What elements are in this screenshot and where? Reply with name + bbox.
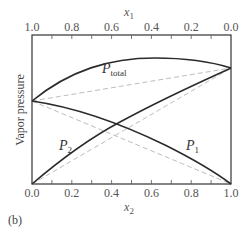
- svg-text:0.4: 0.4: [104, 186, 119, 200]
- raoult-ideal-lines: [32, 68, 231, 184]
- ptotal-curve: [32, 58, 231, 101]
- y-axis-title: Vapor pressure: [13, 74, 27, 146]
- svg-text:0.2: 0.2: [184, 20, 199, 34]
- p1-label: P1: [185, 138, 199, 155]
- svg-text:1.0: 1.0: [224, 186, 239, 200]
- ideal-p2-line: [32, 68, 231, 184]
- svg-text:0.0: 0.0: [224, 20, 239, 34]
- svg-text:1.0: 1.0: [25, 20, 40, 34]
- svg-text:0.8: 0.8: [184, 186, 199, 200]
- x1-axis-title: x1: [123, 5, 134, 21]
- svg-text:0.2: 0.2: [64, 186, 79, 200]
- actual-curves: [32, 58, 231, 184]
- svg-text:0.6: 0.6: [144, 186, 159, 200]
- vapor-pressure-chart: 1.0 0.8 0.6 0.4 0.2 0.0 0.0 0.2 0.4 0.6 …: [0, 0, 247, 236]
- ptotal-label: Ptotal: [101, 61, 127, 78]
- panel-label: (b): [8, 213, 22, 227]
- svg-text:0.8: 0.8: [64, 20, 79, 34]
- top-tick-labels: 1.0 0.8 0.6 0.4 0.2 0.0: [25, 20, 239, 34]
- x2-axis-title: x2: [123, 200, 134, 216]
- bottom-tick-labels: 0.0 0.2 0.4 0.6 0.8 1.0: [25, 186, 239, 200]
- ideal-ptotal-line: [32, 68, 231, 101]
- plot-frame: [32, 35, 231, 184]
- p2-label: P2: [58, 138, 72, 155]
- svg-text:0.6: 0.6: [104, 20, 119, 34]
- svg-text:0.0: 0.0: [25, 186, 40, 200]
- svg-text:0.4: 0.4: [144, 20, 159, 34]
- bottom-ticks: [52, 180, 211, 184]
